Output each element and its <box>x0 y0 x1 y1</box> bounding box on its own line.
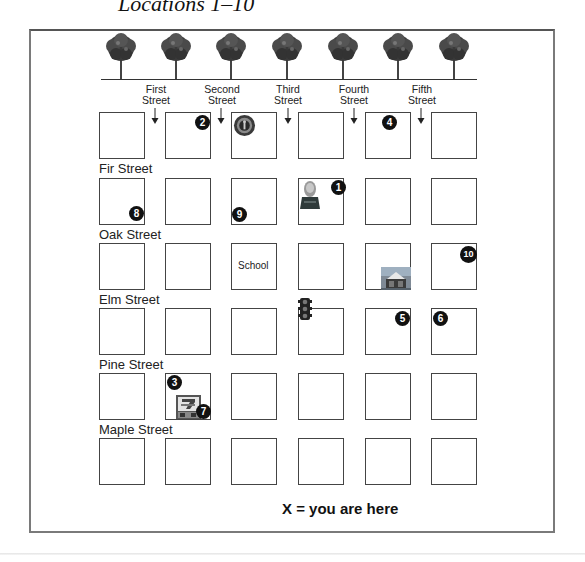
street-label-line: Street <box>192 95 252 106</box>
down-arrow-icon <box>217 108 225 124</box>
city-block[interactable] <box>99 308 145 355</box>
location-marker-9[interactable]: 9 <box>232 207 247 222</box>
school-label: School <box>238 260 269 271</box>
map-title: Locations 1–10 <box>118 0 254 17</box>
down-arrow-icon <box>284 108 292 124</box>
location-marker-6[interactable]: 6 <box>433 311 448 326</box>
city-block[interactable] <box>431 112 477 159</box>
tree-icon <box>104 33 138 79</box>
city-block[interactable] <box>231 308 277 355</box>
statue-icon <box>300 180 322 210</box>
city-block[interactable] <box>431 373 477 420</box>
location-marker-10[interactable]: 10 <box>460 246 477 263</box>
street-label-pine: Pine Street <box>99 358 163 372</box>
location-marker-5[interactable]: 5 <box>395 311 410 326</box>
city-block[interactable] <box>165 308 211 355</box>
city-block[interactable] <box>365 178 411 225</box>
street-label-line: Street <box>126 95 186 106</box>
page-edge-shadow <box>0 553 585 555</box>
street-label-fir: Fir Street <box>99 162 152 176</box>
city-block[interactable] <box>165 243 211 290</box>
location-marker-3[interactable]: 3 <box>167 375 182 390</box>
location-marker-2[interactable]: 2 <box>195 115 210 130</box>
city-block[interactable] <box>231 438 277 485</box>
street-label-oak: Oak Street <box>99 228 161 242</box>
city-block[interactable] <box>365 373 411 420</box>
street-label-first: First Street <box>126 84 186 106</box>
street-label-elm: Elm Street <box>99 293 160 307</box>
city-block[interactable] <box>298 112 344 159</box>
city-block[interactable] <box>231 373 277 420</box>
location-marker-4[interactable]: 4 <box>382 115 397 130</box>
city-block[interactable] <box>298 438 344 485</box>
city-block[interactable] <box>298 373 344 420</box>
street-label-fourth: Fourth Street <box>324 84 384 106</box>
city-block[interactable] <box>165 178 211 225</box>
street-label-fifth: Fifth Street <box>392 84 452 106</box>
building-icon <box>381 267 411 290</box>
street-label-third: Third Street <box>258 84 318 106</box>
city-block[interactable] <box>365 438 411 485</box>
ground-line <box>101 79 477 80</box>
city-block[interactable] <box>298 243 344 290</box>
tree-icon <box>326 33 360 79</box>
tree-icon <box>214 33 248 79</box>
tree-icon <box>437 33 471 79</box>
tree-icon <box>270 33 304 79</box>
city-block[interactable] <box>165 438 211 485</box>
street-label-line: Street <box>258 95 318 106</box>
down-arrow-icon <box>350 108 358 124</box>
city-block[interactable] <box>431 438 477 485</box>
city-block[interactable] <box>99 112 145 159</box>
down-arrow-icon <box>151 108 159 124</box>
street-label-line: Street <box>324 95 384 106</box>
city-block[interactable] <box>431 178 477 225</box>
location-marker-7[interactable]: 7 <box>196 404 211 419</box>
map-legend: X = you are here <box>282 500 398 517</box>
traffic-light-icon <box>298 298 312 320</box>
location-marker-8[interactable]: 8 <box>129 206 144 221</box>
location-marker-1[interactable]: 1 <box>331 180 346 195</box>
city-block[interactable] <box>99 243 145 290</box>
city-block[interactable] <box>99 438 145 485</box>
street-label-second: Second Street <box>192 84 252 106</box>
city-block[interactable] <box>99 373 145 420</box>
tree-icon <box>159 33 193 79</box>
tree-icon <box>381 33 415 79</box>
street-label-line: Street <box>392 95 452 106</box>
down-arrow-icon <box>417 108 425 124</box>
street-label-maple: Maple Street <box>99 423 173 437</box>
starbucks-logo-icon <box>233 114 256 137</box>
